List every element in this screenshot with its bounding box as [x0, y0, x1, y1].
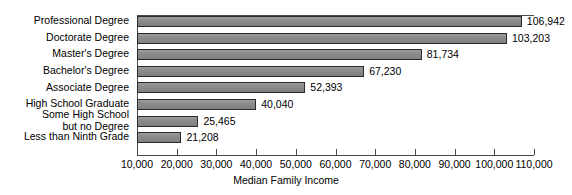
bar-value-label: 103,203: [512, 32, 550, 45]
x-axis-tick-label: 20,000: [161, 158, 193, 170]
x-axis-tick-label: 110,000: [515, 158, 552, 170]
bar-value-label: 67,230: [369, 65, 401, 78]
category-label: Less than Ninth Grade: [24, 131, 129, 143]
category-label-line: Less than Ninth Grade: [24, 131, 129, 143]
x-axis-tick: [296, 149, 297, 155]
category-label: Bachelor's Degree: [43, 65, 129, 77]
bar[interactable]: [137, 33, 507, 44]
category-label-line: Bachelor's Degree: [43, 65, 129, 77]
category-label: Some High Schoolbut no Degree: [42, 109, 129, 132]
x-axis-tick-label: 60,000: [319, 158, 351, 170]
x-axis-tick-label: 80,000: [399, 158, 431, 170]
bar-value-label: 52,393: [310, 81, 342, 94]
category-label-line: Associate Degree: [46, 82, 129, 94]
x-axis-tick-label: 40,000: [240, 158, 272, 170]
x-axis-tick-label: 30,000: [200, 158, 232, 170]
x-axis-tick-label: 50,000: [280, 158, 312, 170]
bar[interactable]: [137, 116, 198, 127]
bar-value-label: 25,465: [203, 115, 235, 128]
x-axis-tick-label: 100,000: [475, 158, 513, 170]
x-axis-tick: [336, 149, 337, 155]
bar-value-label: 81,734: [427, 48, 459, 61]
category-label: Master's Degree: [52, 48, 129, 60]
bar-chart: Professional DegreeDoctorate DegreeMaste…: [0, 0, 572, 195]
x-axis-tick: [177, 149, 178, 155]
bar-value-label: 40,040: [261, 98, 293, 111]
category-label-line: Professional Degree: [34, 15, 129, 27]
x-axis-tick-label: 90,000: [439, 158, 471, 170]
bar[interactable]: [137, 82, 305, 93]
x-axis-line: [137, 155, 534, 156]
x-axis-tick: [137, 149, 138, 155]
bar[interactable]: [137, 132, 181, 143]
bar[interactable]: [137, 66, 364, 77]
x-axis-title: Median Family Income: [0, 174, 572, 186]
category-label: Doctorate Degree: [46, 32, 129, 44]
x-axis-tick: [216, 149, 217, 155]
x-axis-tick-label: 70,000: [359, 158, 391, 170]
category-label-line: Master's Degree: [52, 48, 129, 60]
category-axis-labels: Professional DegreeDoctorate DegreeMaste…: [0, 0, 133, 195]
bar[interactable]: [137, 16, 522, 27]
x-axis-tick: [534, 149, 535, 155]
bar-value-label: 21,208: [186, 131, 218, 144]
x-axis-tick: [455, 149, 456, 155]
category-label-line: Some High School: [42, 109, 129, 121]
x-axis-tick-label: 10,000: [121, 158, 153, 170]
bar[interactable]: [137, 49, 422, 60]
bar-value-label: 106,942: [527, 15, 565, 28]
category-label-line: Doctorate Degree: [46, 32, 129, 44]
plot-area: 106,942103,20381,73467,23052,39340,04025…: [137, 16, 534, 149]
bar[interactable]: [137, 99, 256, 110]
x-axis-tick: [375, 149, 376, 155]
x-axis-tick: [494, 149, 495, 155]
category-label: Associate Degree: [46, 82, 129, 94]
x-axis-tick: [415, 149, 416, 155]
x-axis-tick: [256, 149, 257, 155]
category-label: Professional Degree: [34, 15, 129, 27]
